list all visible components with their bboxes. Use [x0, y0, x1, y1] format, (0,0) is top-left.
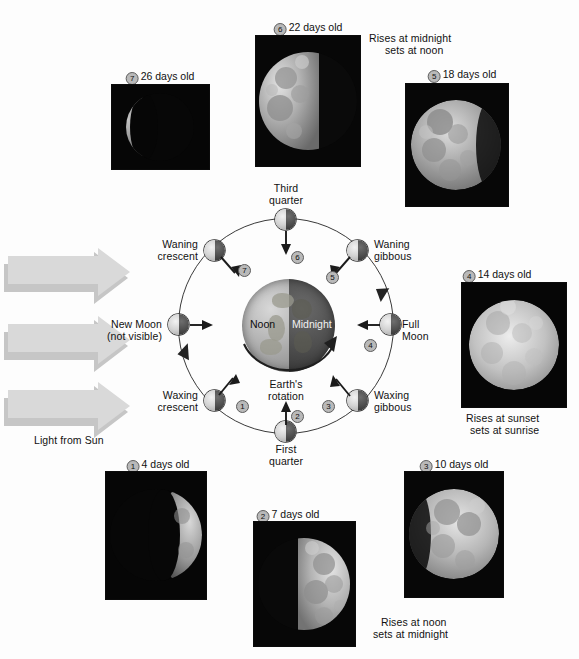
caption-4-days-text: 4 days old	[142, 458, 190, 470]
caption-18-days: 518 days old	[428, 68, 497, 83]
badge-6: 6	[274, 23, 287, 36]
orbit-badge-5: 5	[326, 265, 341, 284]
label-full-moon-line2: Moon	[402, 330, 429, 343]
photo-26-days	[112, 85, 209, 169]
label-first-quarter-line2: quarter	[269, 455, 303, 468]
orbit-badge-7: 7	[238, 258, 253, 277]
photo-7-days	[254, 522, 355, 646]
label-full-moon-line1: Full	[402, 318, 419, 331]
label-third-quarter-line2: quarter	[269, 194, 303, 207]
photo-10-days	[405, 472, 503, 597]
caption-22-days-text: 22 days old	[289, 21, 343, 33]
label-waxing-gibbous-line1: Waxing	[374, 389, 409, 402]
caption-26-days-text: 26 days old	[141, 70, 195, 82]
photo-22-days	[256, 36, 360, 166]
label-new-moon-line1: New Moon	[60, 318, 162, 331]
note-noon-line1: Rises at noon	[381, 616, 447, 629]
label-first-quarter-line1: First	[276, 443, 297, 456]
caption-7-days-text: 7 days old	[272, 508, 320, 520]
badge-5: 5	[428, 70, 441, 83]
label-new-moon-line2: (not visible)	[60, 330, 162, 343]
label-waxing-crescent-line2: crescent	[90, 401, 198, 414]
caption-14-days: 414 days old	[463, 268, 532, 283]
note-midnight-line1: Rises at midnight	[369, 32, 451, 45]
orbit-badge-2: 2	[291, 404, 306, 423]
label-waning-crescent-line1: Waning	[90, 238, 198, 251]
orbit-badge-3: 3	[322, 394, 337, 413]
moon-phases-diagram: Light from Sun Noon Midnight Earth's rot…	[0, 0, 579, 659]
note-sunset-line2: sets at sunrise	[470, 424, 539, 437]
label-waxing-gibbous-line2: gibbous	[374, 401, 411, 414]
orbit-badge-1: 1	[236, 394, 251, 413]
badge-4: 4	[463, 270, 476, 283]
caption-14-days-text: 14 days old	[478, 268, 532, 280]
note-sunset-line1: Rises at sunset	[466, 412, 539, 425]
note-midnight-line2: sets at noon	[385, 44, 443, 57]
photo-4-days	[106, 472, 206, 599]
orbit-badge-4: 4	[364, 333, 379, 352]
caption-4-days: 14 days old	[127, 458, 190, 473]
caption-10-days-text: 10 days old	[435, 458, 489, 470]
note-noon-line2: sets at midnight	[373, 628, 448, 641]
photo-18-days	[406, 84, 508, 206]
caption-18-days-text: 18 days old	[443, 68, 497, 80]
caption-22-days: 622 days old	[274, 21, 343, 36]
caption-7-days: 27 days old	[257, 508, 320, 523]
caption-10-days: 310 days old	[420, 458, 489, 473]
label-waning-gibbous-line1: Waning	[374, 238, 410, 251]
photo-14-days	[462, 283, 566, 407]
orbit-badge-6: 6	[291, 245, 306, 264]
label-waning-gibbous-line2: gibbous	[374, 250, 411, 263]
label-waning-crescent-line2: crescent	[90, 250, 198, 263]
label-third-quarter-line1: Third	[274, 182, 298, 195]
badge-7: 7	[126, 72, 139, 85]
caption-26-days: 726 days old	[126, 70, 195, 85]
label-waxing-crescent-line1: Waxing	[90, 389, 198, 402]
